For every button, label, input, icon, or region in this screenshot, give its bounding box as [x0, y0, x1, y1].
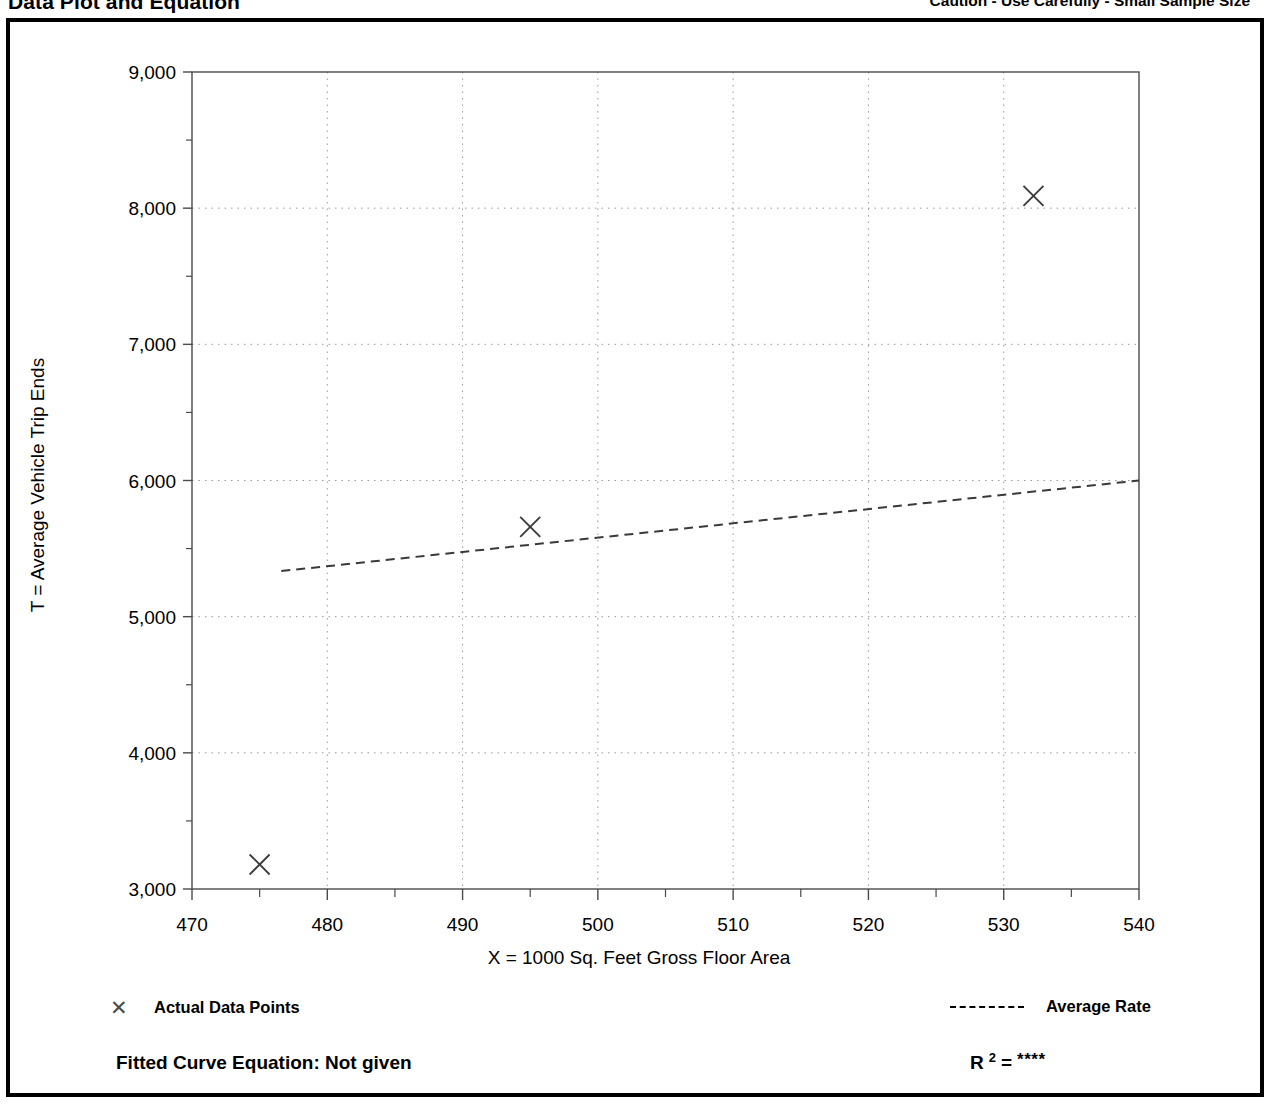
equation-row: Fitted Curve Equation: Not given R2 = **… — [10, 1052, 1268, 1094]
x-axis-title: X = 1000 Sq. Feet Gross Floor Area — [10, 947, 1268, 969]
caution-note: Caution - Use Carefully - Small Sample S… — [930, 0, 1250, 10]
plot-border — [192, 72, 1139, 889]
data-point-marker — [250, 854, 270, 874]
average-rate-trendline — [281, 481, 1139, 572]
legend-item-average-rate: Average Rate — [950, 997, 1151, 1016]
minor-tick-marks — [186, 140, 1071, 897]
x-tick-label: 530 — [988, 914, 1020, 935]
x-tick-label: 520 — [853, 914, 885, 935]
y-tick-label: 3,000 — [128, 879, 176, 900]
chart-svg: 3,0004,0005,0006,0007,0008,0009,000 4704… — [10, 22, 1268, 1101]
gridlines — [192, 72, 1139, 889]
y-tick-label: 8,000 — [128, 198, 176, 219]
x-tick-label: 480 — [311, 914, 343, 935]
x-tick-label: 470 — [176, 914, 208, 935]
x-axis-tick-labels: 470480490500510520530540 — [176, 914, 1155, 935]
axis-lines — [192, 72, 1139, 889]
y-tick-label: 9,000 — [128, 62, 176, 83]
page-title: Data Plot and Equation — [8, 0, 240, 14]
data-point-marker — [520, 517, 540, 537]
r-exponent: 2 — [989, 1050, 996, 1065]
page-header: Data Plot and Equation Caution - Use Car… — [0, 0, 1272, 18]
chart-page: Data Plot and Equation Caution - Use Car… — [0, 0, 1272, 1109]
legend-item-data-points: ✕ Actual Data Points — [110, 997, 300, 1018]
r-symbol: R — [970, 1052, 984, 1074]
data-point-marker — [1023, 186, 1043, 206]
y-tick-label: 6,000 — [128, 471, 176, 492]
x-tick-label: 490 — [447, 914, 479, 935]
major-tick-marks — [183, 72, 1139, 900]
y-tick-label: 5,000 — [128, 607, 176, 628]
chart-legend: ✕ Actual Data Points Average Rate — [10, 997, 1268, 1037]
x-tick-label: 500 — [582, 914, 614, 935]
dashed-line-icon — [950, 1006, 1024, 1008]
chart-frame: 3,0004,0005,0006,0007,0008,0009,000 4704… — [6, 18, 1264, 1097]
y-tick-label: 7,000 — [128, 334, 176, 355]
data-point-markers — [250, 186, 1044, 875]
average-rate-line — [281, 481, 1139, 572]
x-tick-label: 510 — [717, 914, 749, 935]
r-squared-value: R2 = **** — [970, 1052, 1046, 1074]
x-marker-icon: ✕ — [110, 997, 128, 1018]
legend-label-data-points: Actual Data Points — [154, 998, 300, 1017]
plot-area: 3,0004,0005,0006,0007,0008,0009,000 4704… — [10, 22, 1268, 1101]
y-axis-tick-labels: 3,0004,0005,0006,0007,0008,0009,000 — [128, 62, 176, 900]
y-axis-title: T = Average Vehicle Trip Ends — [27, 305, 49, 665]
x-tick-label: 540 — [1123, 914, 1155, 935]
equals-sign: = — [1001, 1052, 1012, 1074]
r-squared-stars: **** — [1017, 1050, 1045, 1070]
y-tick-label: 4,000 — [128, 743, 176, 764]
legend-label-average-rate: Average Rate — [1046, 997, 1151, 1016]
fitted-curve-equation: Fitted Curve Equation: Not given — [116, 1052, 412, 1074]
